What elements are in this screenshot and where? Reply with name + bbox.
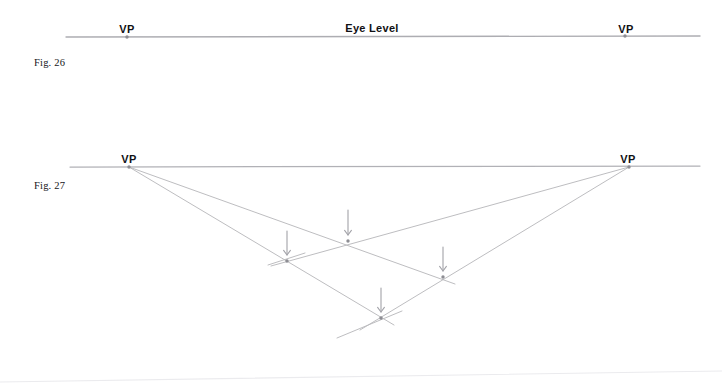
arrow-bottom-icon [378, 288, 385, 312]
fig27-vanishing-point-right [627, 165, 630, 168]
figure-sheet: VP VP Eye Level Fig. 26 VP VP Fig. 27 [0, 0, 722, 391]
arrow-center-upper-icon [345, 210, 352, 235]
fig27-intersection-bottom [379, 316, 382, 319]
arrow-right-icon [440, 247, 447, 271]
fig27-left-vp-label: VP [121, 153, 136, 165]
page-edge-line [0, 371, 722, 382]
fig27-left-vp-to-bottom [129, 167, 394, 325]
fig26-left-vp-label: VP [119, 23, 134, 35]
fig27-caption: Fig. 27 [34, 180, 65, 191]
fig27-right-vp-to-upper-left [271, 167, 629, 266]
arrow-left-icon [284, 231, 291, 255]
fig27-right-vp-to-bottom-left [360, 167, 629, 330]
fig26-caption: Fig. 26 [34, 57, 65, 68]
fig27-horizon-line [70, 166, 700, 167]
fig26-right-vp-label: VP [618, 23, 633, 35]
fig27-vanishing-point-left [127, 165, 130, 168]
fig26-eye-level-line [66, 36, 700, 37]
fig26-vanishing-point-left [125, 35, 128, 38]
fig27-intersection-right [441, 275, 444, 278]
fig27-intersection-left [285, 259, 288, 262]
fig27-left-vp-to-lower-right [129, 167, 455, 284]
fig27-intersection-center-upper [346, 239, 349, 242]
fig26-eye-level-label: Eye Level [345, 22, 398, 34]
perspective-diagram-canvas [0, 0, 722, 391]
fig27-right-vp-label: VP [620, 153, 635, 165]
